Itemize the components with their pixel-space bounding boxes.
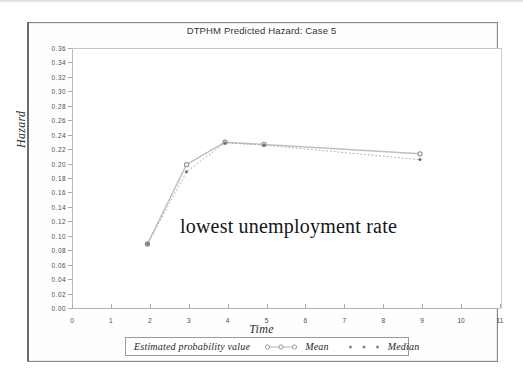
y-tick-mark: [68, 48, 72, 49]
data-marker-median: [263, 144, 266, 147]
y-tick-mark: [68, 164, 72, 165]
legend-title: Estimated probability value: [134, 341, 250, 352]
filled-dot-marker-icon: [347, 342, 381, 352]
y-tick-label: 0.26: [52, 117, 66, 124]
y-tick-mark: [68, 279, 72, 280]
y-tick-mark: [68, 207, 72, 208]
x-axis-title: Time: [0, 322, 523, 337]
data-marker-median: [419, 158, 422, 161]
y-tick-mark: [68, 178, 72, 179]
y-tick-label: 0.02: [52, 290, 66, 297]
y-tick-mark: [68, 221, 72, 222]
y-tick-label: 0.32: [52, 73, 66, 80]
y-tick-label: 0.18: [52, 175, 66, 182]
y-tick-mark: [68, 91, 72, 92]
y-tick-mark: [68, 135, 72, 136]
y-tick-label: 0.04: [52, 276, 66, 283]
y-tick-mark: [68, 192, 72, 193]
y-tick-mark: [68, 77, 72, 78]
y-tick-mark: [68, 236, 72, 237]
x-tick-mark: [72, 304, 73, 308]
data-marker-median: [146, 243, 149, 246]
data-marker-median: [185, 170, 188, 173]
y-tick-label: 0.36: [52, 45, 66, 52]
y-tick-label: 0.00: [52, 305, 66, 312]
legend: Estimated probability value Mean Median: [125, 337, 409, 356]
data-marker-mean: [184, 163, 188, 167]
x-tick-mark: [461, 304, 462, 308]
y-tick-mark: [68, 106, 72, 107]
x-tick-mark: [189, 304, 190, 308]
scan-edge: [0, 0, 523, 3]
y-tick-label: 0.34: [52, 59, 66, 66]
x-tick-mark: [383, 304, 384, 308]
data-marker-median: [224, 141, 227, 144]
y-tick-label: 0.16: [52, 189, 66, 196]
y-tick-mark: [68, 62, 72, 63]
y-tick-label: 0.06: [52, 261, 66, 268]
y-tick-label: 0.12: [52, 218, 66, 225]
x-tick-mark: [422, 304, 423, 308]
legend-label-median: Median: [388, 341, 420, 352]
chart-annotation: lowest unemployment rate: [180, 215, 397, 238]
x-tick-mark: [111, 304, 112, 308]
y-tick-label: 0.10: [52, 232, 66, 239]
x-tick-mark: [305, 304, 306, 308]
y-tick-mark: [68, 149, 72, 150]
y-tick-label: 0.28: [52, 102, 66, 109]
y-tick-label: 0.08: [52, 247, 66, 254]
y-tick-label: 0.20: [52, 160, 66, 167]
open-circle-marker-icon: [264, 342, 298, 352]
x-tick-mark: [500, 304, 501, 308]
y-axis-title: Hazard: [14, 111, 29, 148]
y-tick-mark: [68, 308, 72, 309]
legend-label-mean: Mean: [305, 341, 329, 352]
x-tick-mark: [344, 304, 345, 308]
y-tick-mark: [68, 120, 72, 121]
x-tick-mark: [228, 304, 229, 308]
y-tick-mark: [68, 265, 72, 266]
y-tick-label: 0.14: [52, 203, 66, 210]
chart-title: DTPHM Predicted Hazard: Case 5: [0, 25, 523, 36]
legend-entry-median: Median: [347, 341, 420, 352]
y-tick-mark: [68, 294, 72, 295]
y-tick-label: 0.24: [52, 131, 66, 138]
x-axis-line: [72, 308, 500, 309]
x-tick-mark: [267, 304, 268, 308]
series-canvas: [73, 49, 501, 309]
legend-entry-mean: Mean: [264, 341, 329, 352]
y-tick-label: 0.30: [52, 88, 66, 95]
x-tick-mark: [150, 304, 151, 308]
y-tick-label: 0.22: [52, 146, 66, 153]
y-tick-mark: [68, 250, 72, 251]
plot-area: [72, 48, 502, 309]
data-marker-mean: [418, 152, 422, 156]
